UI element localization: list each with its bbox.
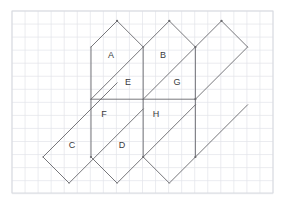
right-edge-down (195, 47, 247, 99)
figure-root: ABCDEFGH (0, 0, 281, 206)
apex-right-left (195, 21, 221, 47)
face-label-e: E (125, 77, 131, 87)
face-label-b: B (160, 50, 166, 60)
net-diagram: ABCDEFGH (0, 0, 281, 206)
apex-right-right (222, 21, 248, 47)
face-label-g: G (173, 77, 180, 87)
face-label-f: F (101, 109, 107, 119)
face-label-c: C (69, 140, 76, 150)
bottom-h-left (143, 157, 169, 183)
graph-paper-grid (12, 11, 273, 194)
diagonal-far-right (169, 105, 247, 183)
net-vertices-group (90, 20, 223, 158)
vertex-apex-a (116, 20, 118, 22)
face-label-a: A (108, 50, 114, 60)
vertex-junction-right-mid (194, 98, 196, 100)
apex-a-left (91, 21, 117, 47)
vertex-junction-left-lower (90, 156, 92, 158)
bottom-d-left (91, 157, 117, 183)
vertex-junction-mid-lower (142, 156, 144, 158)
apex-b-right (169, 21, 195, 47)
bottom-c-left (43, 157, 69, 183)
vertex-apex-b (168, 20, 170, 22)
vertex-apex-far-right (220, 20, 222, 22)
diagonal-g (143, 47, 195, 99)
apex-a-right (117, 21, 143, 47)
diagonal-e (91, 47, 143, 99)
face-label-h: H (153, 109, 160, 119)
face-label-d: D (119, 140, 126, 150)
apex-b-left (143, 21, 169, 47)
vertex-junction-right-upper (194, 46, 196, 48)
vertex-junction-right-lower (194, 156, 196, 158)
